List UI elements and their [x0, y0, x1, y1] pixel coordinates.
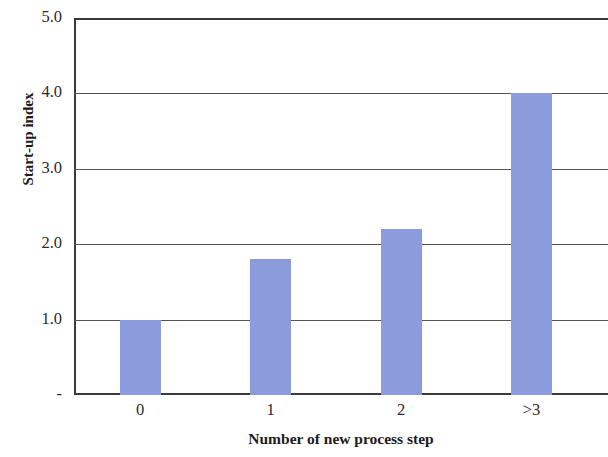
bars-group [74, 18, 608, 395]
plot-area [74, 18, 608, 395]
bar [511, 93, 552, 395]
x-axis-title: Number of new process step [74, 430, 608, 448]
x-axis-tick-label: >3 [492, 400, 572, 420]
x-axis-tick-label: 1 [231, 400, 311, 420]
bar [381, 229, 422, 395]
x-axis-tick-label: 0 [100, 400, 180, 420]
y-axis-tick-label: 2.0 [4, 233, 62, 253]
bar [250, 259, 291, 395]
bar-chart-figure: Start-up index -1.02.03.04.05.0 012>3 Nu… [0, 0, 608, 457]
x-axis-tick-label: 2 [361, 400, 441, 420]
y-axis-tick-label: 1.0 [4, 309, 62, 329]
y-axis-tick-label: 5.0 [4, 7, 62, 27]
x-axis-tick-labels: 012>3 [74, 400, 608, 426]
y-axis-tick-label: - [4, 384, 62, 404]
bar [120, 320, 161, 395]
y-axis-tick-label: 3.0 [4, 158, 62, 178]
y-axis-tick-labels: -1.02.03.04.05.0 [0, 0, 62, 457]
y-axis-tick-label: 4.0 [4, 82, 62, 102]
